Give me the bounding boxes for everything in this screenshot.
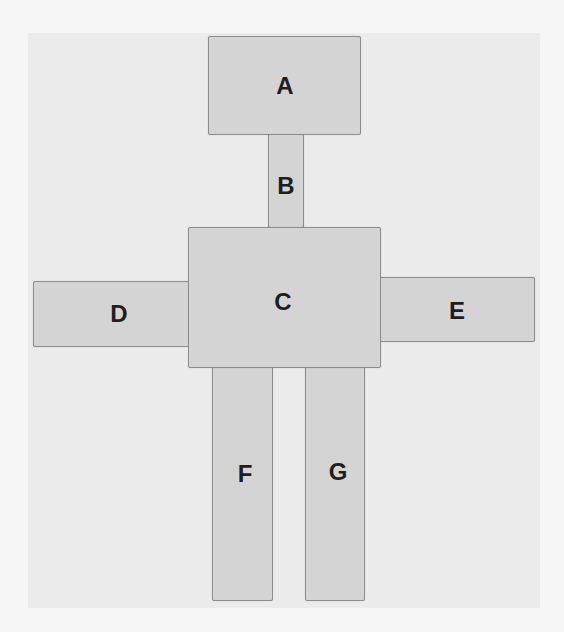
label-a: A	[276, 74, 293, 98]
label-f: F	[238, 462, 253, 486]
label-e: E	[449, 299, 465, 323]
label-c: C	[274, 290, 291, 314]
label-b: B	[277, 174, 294, 198]
label-g: G	[329, 460, 348, 484]
label-d: D	[110, 302, 127, 326]
